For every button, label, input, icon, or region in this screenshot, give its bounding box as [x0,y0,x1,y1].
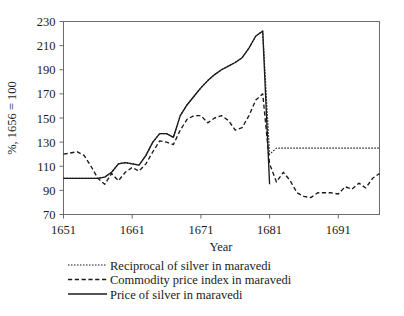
x-tick-label: 1661 [120,223,145,237]
y-tick-label: 90 [43,184,56,198]
y-tick-label: 230 [37,15,56,29]
price-index-line-chart: 7090110130150170190210230 16511661167116… [0,0,404,316]
y-tick-label: 130 [37,136,56,150]
x-tick-label: 1681 [257,223,282,237]
y-tick-label: 70 [43,208,56,222]
legend-label: Commodity price index in maravedi [110,273,292,287]
y-tick-label: 190 [37,63,56,77]
x-tick-label: 1671 [188,223,213,237]
x-tick-label: 1651 [51,223,76,237]
x-axis-title: Year [209,240,233,254]
legend-label: Reciprocal of silver in maravedi [110,259,272,273]
y-tick-label: 150 [37,112,56,126]
y-tick-label: 170 [37,87,56,101]
y-tick-label: 210 [37,39,56,53]
y-tick-label: 110 [37,160,55,174]
x-tick-label: 1691 [326,223,351,237]
chart-figure: 7090110130150170190210230 16511661167116… [0,0,404,316]
legend-label: Price of silver in maravedi [110,288,243,302]
y-axis-title: %, 1656 = 100 [5,81,19,155]
